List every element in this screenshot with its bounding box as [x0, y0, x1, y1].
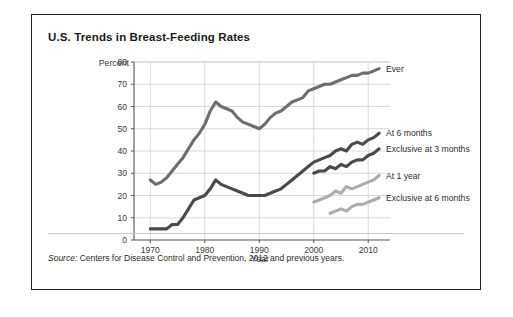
- y-tick-label: 50: [117, 124, 127, 134]
- source-text: Centers for Disease Control and Preventi…: [77, 253, 344, 263]
- y-tick-label: 0: [122, 235, 127, 245]
- series-label: Exclusive at 3 months: [386, 144, 470, 154]
- breast-feeding-rates-line-chart: 01020304050607080 19701980199020002010 E…: [32, 15, 482, 291]
- y-tick-label: 60: [117, 102, 127, 112]
- y-axis-label: Percent: [99, 58, 130, 68]
- data-series-lines: [150, 69, 379, 229]
- source-label: Source:: [48, 253, 77, 263]
- series-label: At 1 year: [386, 171, 421, 181]
- series-label: Ever: [386, 64, 404, 74]
- x-tick-label: 2010: [359, 245, 378, 255]
- y-tick-label: 20: [117, 191, 127, 201]
- divider: [48, 233, 464, 234]
- chart-card: U.S. Trends in Breast-Feeding Rates 0102…: [31, 14, 481, 290]
- series-labels: EverAt 6 monthsExclusive at 3 monthsAt 1…: [386, 64, 470, 203]
- series-label: At 6 months: [386, 128, 432, 138]
- series-line: [150, 133, 379, 229]
- y-tick-label: 40: [117, 146, 127, 156]
- y-tick-labels: 01020304050607080: [117, 57, 127, 245]
- y-tick-label: 10: [117, 213, 127, 223]
- y-tick-label: 30: [117, 168, 127, 178]
- series-line: [314, 175, 379, 202]
- source-note: Source: Centers for Disease Control and …: [48, 253, 344, 263]
- gridlines: [131, 62, 390, 240]
- y-tick-label: 70: [117, 79, 127, 89]
- series-label: Exclusive at 6 months: [386, 193, 470, 203]
- series-line: [330, 198, 379, 214]
